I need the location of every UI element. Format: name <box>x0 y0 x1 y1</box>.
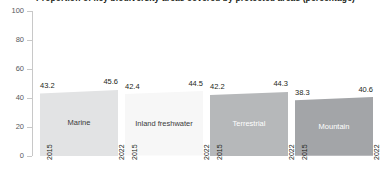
chart-title-strip: Proportion of key biodiversity areas cov… <box>0 0 386 7</box>
y-axis-tick <box>27 156 32 157</box>
x-axis-year-label: 2015 <box>216 144 223 160</box>
y-axis-tick-label: 40 <box>2 94 24 102</box>
bar-start-value-label: 42.4 <box>125 83 140 91</box>
bar-category-label: Marine <box>40 119 118 127</box>
plot-area: Marine43.245.6Inland freshwater42.444.5T… <box>33 11 386 156</box>
y-axis-tick <box>27 69 32 70</box>
bar-group[interactable]: Inland freshwater42.444.5 <box>125 11 203 156</box>
bar-group[interactable]: Mountain38.340.6 <box>295 11 373 156</box>
y-axis-tick-label-wrap: 0 <box>0 156 24 157</box>
chart-title: Proportion of key biodiversity areas cov… <box>36 0 355 3</box>
bar-end-value-label: 44.3 <box>273 80 288 88</box>
y-axis-tick-label-wrap: 40 <box>0 98 24 99</box>
chart-container: Proportion of key biodiversity areas cov… <box>0 0 386 193</box>
y-axis-tick-label-wrap: 60 <box>0 69 24 70</box>
bar-end-value-label: 44.5 <box>188 80 203 88</box>
x-axis-year-label: 2022 <box>118 144 125 160</box>
bar-group[interactable]: Marine43.245.6 <box>40 11 118 156</box>
y-axis-tick-label: 0 <box>2 152 24 160</box>
x-axis-year-label: 2022 <box>373 144 380 160</box>
y-axis-tick-label: 60 <box>2 65 24 73</box>
y-axis-tick-label: 100 <box>2 7 24 15</box>
bar-category-label: Mountain <box>295 123 373 131</box>
y-axis-tick-label-wrap: 80 <box>0 40 24 41</box>
y-axis-tick-label-wrap: 20 <box>0 127 24 128</box>
x-axis-year-label: 2022 <box>288 144 295 160</box>
y-axis-tick <box>27 11 32 12</box>
bar-end-value-label: 45.6 <box>103 78 118 86</box>
bar-start-value-label: 38.3 <box>295 89 310 97</box>
x-axis-year-label: 2015 <box>131 144 138 160</box>
y-axis-tick <box>27 40 32 41</box>
bar-group[interactable]: Terrestrial42.244.3 <box>210 11 288 156</box>
bar-category-label: Inland freshwater <box>125 120 203 128</box>
x-axis-year-label: 2022 <box>203 144 210 160</box>
y-axis-tick-label-wrap: 100 <box>0 11 24 12</box>
y-axis-tick-label: 80 <box>2 36 24 44</box>
bar-category-label: Terrestrial <box>210 120 288 128</box>
y-axis-tick <box>27 98 32 99</box>
bar-start-value-label: 42.2 <box>210 83 225 91</box>
x-axis-year-label: 2015 <box>301 144 308 160</box>
bar-start-value-label: 43.2 <box>40 82 55 90</box>
x-axis-year-label: 2015 <box>46 144 53 160</box>
y-axis-tick-label: 20 <box>2 123 24 131</box>
y-axis-tick <box>27 127 32 128</box>
bar-end-value-label: 40.6 <box>358 86 373 94</box>
